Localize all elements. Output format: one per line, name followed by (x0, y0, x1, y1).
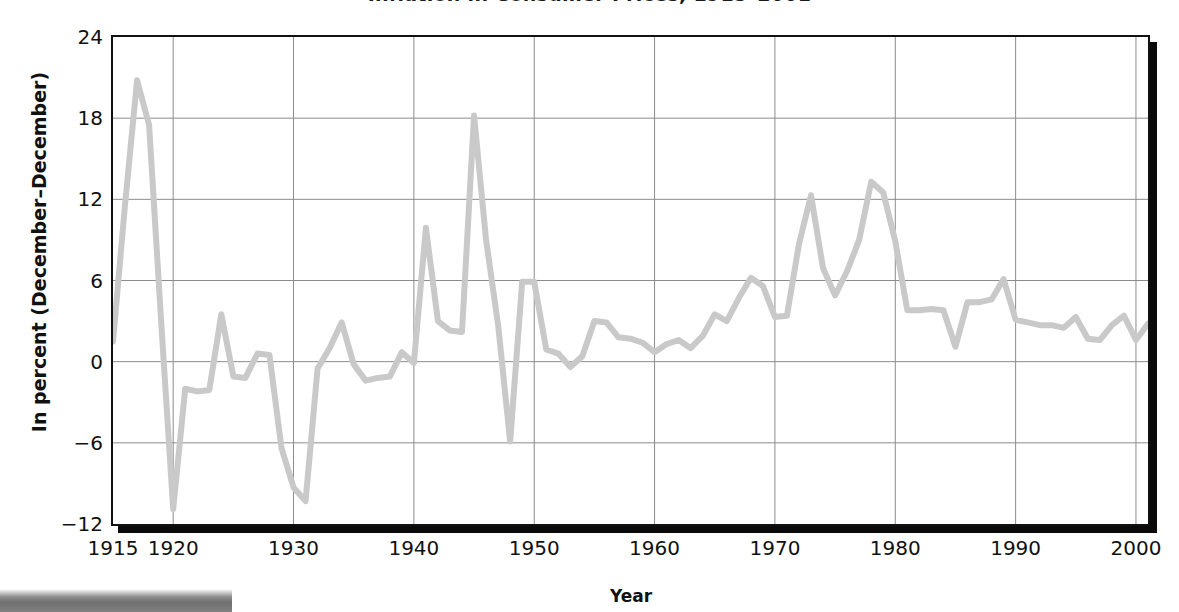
plot-area (111, 35, 1150, 526)
y-tick-label: 0 (13, 350, 103, 374)
y-tick-label: −12 (13, 512, 103, 536)
y-tick-label: 12 (13, 187, 103, 211)
y-tick-label: −6 (13, 431, 103, 455)
x-tick-label: 1980 (840, 536, 950, 560)
y-tick-label: 24 (13, 25, 103, 49)
inflation-line-chart (113, 37, 1148, 524)
x-tick-label: 1970 (720, 536, 830, 560)
x-tick-label: 1940 (359, 536, 469, 560)
bottom-status-bar[interactable] (0, 589, 232, 612)
x-tick-label: 1990 (961, 536, 1071, 560)
chart-title: Inflation in Consumer Prices, 1915–2001 (0, 0, 1179, 5)
x-tick-label: 1920 (118, 536, 228, 560)
x-tick-label: 1960 (600, 536, 710, 560)
y-tick-label: 18 (13, 106, 103, 130)
x-axis-title: Year (111, 586, 1151, 606)
x-axis-tick-labels: 1915192019301940195019601970198019902000 (111, 536, 1150, 566)
x-tick-label: 1950 (479, 536, 589, 560)
x-tick-label: 2000 (1081, 536, 1179, 560)
x-tick-label: 1930 (239, 536, 349, 560)
series-group (113, 80, 1148, 509)
y-tick-label: 6 (13, 269, 103, 293)
series-line (113, 80, 1148, 509)
y-axis-tick-labels: 24181260−6−12 (8, 35, 103, 526)
gridlines (113, 37, 1148, 524)
